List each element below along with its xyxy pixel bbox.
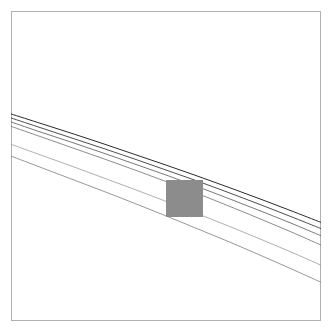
chart-figure [0,0,332,333]
axes-frame [12,12,321,321]
plot-canvas [0,0,332,333]
inset-region-rectangle[interactable] [166,180,203,217]
